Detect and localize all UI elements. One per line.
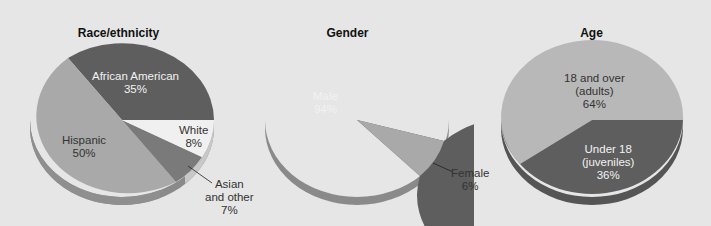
race-pie bbox=[0, 0, 237, 226]
label-adults: 18 and over (adults) 64% bbox=[564, 72, 625, 111]
gender-chart: Gender Male 94% Female 6% bbox=[237, 0, 474, 226]
age-pie bbox=[474, 0, 711, 226]
label-african-american: African American 35% bbox=[92, 70, 179, 96]
label-juveniles: Under 18 (juveniles) 36% bbox=[582, 143, 634, 182]
label-white: White 8% bbox=[179, 124, 208, 150]
gender-pie bbox=[237, 0, 474, 226]
race-ethnicity-chart: Race/ethnicity African American 35% Hisp… bbox=[0, 0, 237, 226]
age-chart: Age 18 and over (adults) 64% Under 18 (j… bbox=[474, 0, 711, 226]
label-hispanic: Hispanic 50% bbox=[62, 134, 106, 160]
label-male: Male 94% bbox=[313, 90, 338, 116]
